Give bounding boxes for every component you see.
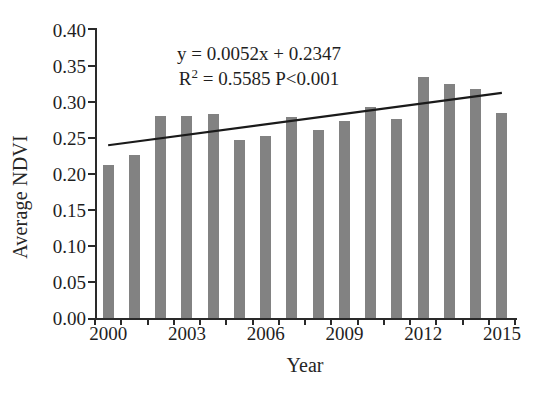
- y-tick-mark: [88, 173, 95, 175]
- regression-equation: y = 0.0052x + 0.2347: [134, 42, 384, 66]
- fit-stats-text: = 0.5585 P<0.001: [198, 69, 339, 90]
- y-tick-mark: [88, 281, 95, 283]
- y-tick-label: 0.35: [30, 57, 86, 76]
- y-tick-mark: [88, 137, 95, 139]
- ndvi-trend-chart: Average NDVI 0.400.350.300.250.200.150.1…: [0, 0, 545, 394]
- x-tick-label: 2006: [247, 324, 285, 343]
- r-label: R: [179, 69, 192, 90]
- y-axis-cap-top: [88, 28, 95, 30]
- x-tick-label: 2009: [325, 324, 363, 343]
- y-tick-label: 0.25: [30, 129, 86, 148]
- regression-annotation: y = 0.0052x + 0.2347 R2 = 0.5585 P<0.001: [134, 42, 384, 92]
- regression-fit-stats: R2 = 0.5585 P<0.001: [134, 66, 384, 92]
- y-tick-label: 0.20: [30, 165, 86, 184]
- x-axis-title: Year: [95, 354, 515, 377]
- x-tick-label: 2000: [89, 324, 127, 343]
- y-tick-label: 0.00: [30, 309, 86, 328]
- y-tick-mark: [88, 65, 95, 67]
- y-tick-mark: [88, 209, 95, 211]
- y-tick-label: 0.15: [30, 201, 86, 220]
- x-tick-label: 2003: [168, 324, 206, 343]
- y-axis-tick-labels: 0.400.350.300.250.200.150.100.050.00: [30, 0, 86, 394]
- y-tick-label: 0.10: [30, 237, 86, 256]
- y-tick-label: 0.30: [30, 93, 86, 112]
- y-tick-mark: [88, 101, 95, 103]
- y-tick-label: 0.40: [30, 21, 86, 40]
- x-tick-label: 2015: [483, 324, 521, 343]
- x-tick-label: 2012: [404, 324, 442, 343]
- x-axis-tick-labels: 200020032006200920122015: [95, 324, 515, 350]
- y-tick-mark: [88, 245, 95, 247]
- y-tick-label: 0.05: [30, 273, 86, 292]
